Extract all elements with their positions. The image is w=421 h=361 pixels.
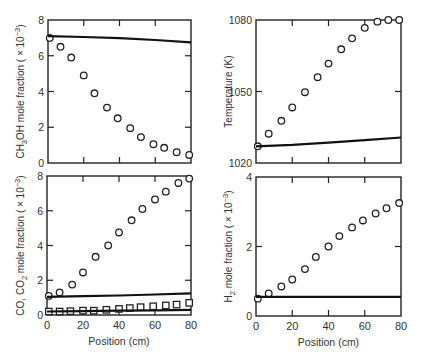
data-point-circle <box>161 145 168 152</box>
x-tick-label: 80 <box>185 319 197 331</box>
data-point-circle <box>349 35 356 42</box>
data-point-circle <box>396 17 403 24</box>
data-point-circle <box>338 46 345 53</box>
x-tick-label: 20 <box>77 319 89 331</box>
data-point-circle <box>114 115 121 122</box>
y-tick-label: 1080 <box>229 14 253 26</box>
data-point-circle <box>56 289 63 296</box>
y-axis-label: CH3OH mole fraction ( × 10−3) <box>13 24 29 158</box>
data-point-circle <box>360 217 367 224</box>
x-tick-label: 0 <box>44 319 50 331</box>
plot-frame <box>256 20 401 163</box>
y-tick-label: 0 <box>37 309 43 321</box>
y-tick-label: 6 <box>38 50 44 62</box>
data-point-circle <box>139 206 146 213</box>
data-point-circle <box>302 266 309 273</box>
data-point-circle <box>186 152 193 159</box>
data-point-circle <box>186 175 193 182</box>
data-point-circle <box>372 210 379 217</box>
data-point-circle <box>325 60 332 67</box>
data-point-circle <box>105 242 112 249</box>
y-tick-label: 2 <box>38 121 44 133</box>
model-curve <box>48 36 191 42</box>
x-axis-label: Position (cm) <box>298 336 359 348</box>
y-tick-label: 8 <box>38 14 44 26</box>
data-point-circle <box>265 290 272 297</box>
data-point-circle <box>152 196 159 203</box>
data-point-circle <box>163 188 170 195</box>
panel-bottom-left: 02040608002468CO, CO2 mole fraction ( × … <box>13 170 197 347</box>
data-point-circle <box>138 134 145 141</box>
x-tick-label: 0 <box>253 320 259 332</box>
data-point-circle <box>116 229 123 236</box>
data-point-circle <box>336 233 343 240</box>
series-co-measured <box>46 175 193 299</box>
data-point-circle <box>349 224 356 231</box>
data-point-circle <box>173 149 180 156</box>
x-axis-label: Position (cm) <box>88 335 149 347</box>
data-point-square <box>173 301 179 307</box>
x-tick-label: 80 <box>395 320 407 332</box>
data-point-circle <box>80 72 87 79</box>
data-point-square <box>186 300 192 306</box>
panel-top-left: 02468CH3OH mole fraction ( × 10−3) <box>13 14 193 169</box>
series-measured <box>255 17 403 150</box>
data-point-circle <box>69 281 76 288</box>
data-point-circle <box>91 90 98 97</box>
data-point-circle <box>278 118 285 125</box>
data-point-circle <box>92 253 99 260</box>
panel-bottom-right: 020406080024H2 mole fraction ( × 10−3)Po… <box>221 171 407 348</box>
figure: 02468CH3OH mole fraction ( × 10−3)102010… <box>0 0 421 361</box>
data-point-circle <box>175 180 182 187</box>
data-point-circle <box>265 130 272 137</box>
y-tick-label: 8 <box>37 170 43 182</box>
data-point-circle <box>289 104 296 111</box>
x-tick-label: 60 <box>359 320 371 332</box>
series-measured <box>46 35 192 159</box>
y-tick-label: 4 <box>37 240 43 252</box>
y-tick-label: 0 <box>38 157 44 169</box>
x-tick-label: 40 <box>113 319 125 331</box>
series-measured <box>255 200 403 302</box>
data-point-circle <box>289 276 296 283</box>
y-tick-label: 0 <box>246 310 252 322</box>
y-axis-label: CO, CO2 mole fraction ( × 10−3) <box>13 175 29 315</box>
data-point-circle <box>302 89 309 96</box>
series-model <box>256 138 401 147</box>
data-point-circle <box>313 254 320 261</box>
y-axis-label: H2 mole fraction ( × 10−3) <box>221 191 237 303</box>
data-point-square <box>150 303 156 309</box>
series-co2-measured <box>46 300 193 315</box>
y-tick-label: 6 <box>37 205 43 217</box>
data-point-circle <box>385 17 392 24</box>
data-point-circle <box>325 243 332 250</box>
data-point-circle <box>150 141 157 148</box>
data-point-circle <box>383 205 390 212</box>
data-point-circle <box>104 104 111 111</box>
model-curve <box>256 138 401 147</box>
panel-top-right: 102010501080Temperature (K) <box>223 14 402 169</box>
data-point-circle <box>68 54 75 61</box>
x-tick-label: 60 <box>149 319 161 331</box>
data-point-circle <box>127 125 134 132</box>
data-point-circle <box>396 200 403 207</box>
x-tick-label: 20 <box>286 320 298 332</box>
data-point-circle <box>374 18 381 25</box>
x-tick-label: 40 <box>322 320 334 332</box>
data-point-circle <box>128 217 135 224</box>
data-point-circle <box>278 283 285 290</box>
y-tick-label: 4 <box>246 171 252 183</box>
series-co-model <box>47 293 191 297</box>
data-point-circle <box>80 269 87 276</box>
data-point-square <box>163 302 169 308</box>
model-curve <box>47 293 191 297</box>
y-tick-label: 2 <box>246 241 252 253</box>
y-tick-label: 4 <box>38 86 44 98</box>
y-tick-label: 1020 <box>229 157 253 169</box>
y-axis-label: Temperature (K) <box>223 55 234 127</box>
series-model <box>48 36 191 42</box>
data-point-circle <box>361 25 368 32</box>
data-point-circle <box>57 44 64 51</box>
data-point-circle <box>314 74 321 81</box>
y-tick-label: 2 <box>37 274 43 286</box>
